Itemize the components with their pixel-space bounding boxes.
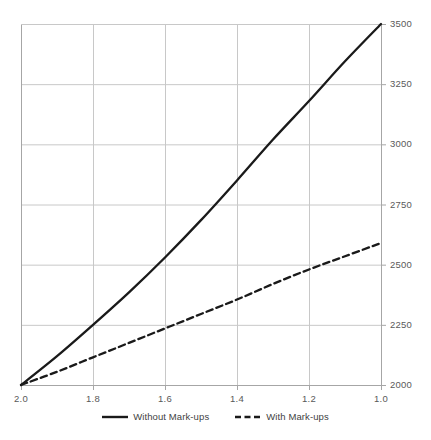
legend-label-without-markups: Without Mark-ups — [133, 412, 209, 422]
legend-item-with-markups[interactable]: With Mark-ups — [235, 412, 329, 422]
x-axis-tick-label: 1.6 — [158, 394, 172, 404]
axis-tick-marks — [22, 25, 387, 391]
legend-item-without-markups[interactable]: Without Mark-ups — [102, 412, 209, 422]
chart-legend: Without Mark-ups With Mark-ups — [0, 412, 431, 422]
y-axis-tick-label: 2250 — [390, 320, 412, 330]
series-line-dashed — [21, 243, 381, 385]
x-axis-tick-label: 1.2 — [302, 394, 316, 404]
x-axis-tick-label: 1.8 — [86, 394, 100, 404]
y-axis-tick-label: 2500 — [390, 260, 412, 270]
chart-plot-area — [0, 0, 431, 440]
y-axis-tick-label: 3250 — [390, 79, 412, 89]
x-axis-tick-label: 2.0 — [14, 394, 28, 404]
x-axis-tick-label: 1.4 — [230, 394, 244, 404]
y-axis-tick-label: 2000 — [390, 380, 412, 390]
horizontal-gridlines — [21, 25, 381, 386]
y-axis-tick-label: 3000 — [390, 139, 412, 149]
y-axis-tick-label: 3500 — [390, 19, 412, 29]
legend-line-swatch-solid — [102, 412, 128, 422]
legend-label-with-markups: With Mark-ups — [266, 412, 329, 422]
chart-container: 2000225025002750300032503500 2.01.81.61.… — [0, 0, 431, 440]
x-axis-tick-label: 1.0 — [374, 394, 388, 404]
y-axis-tick-label: 2750 — [390, 200, 412, 210]
legend-line-swatch-dashed — [235, 412, 261, 422]
